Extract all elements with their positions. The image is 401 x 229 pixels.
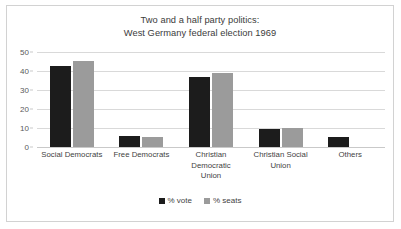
gridline-0 [37, 147, 385, 148]
y-axis-tick-mark [30, 109, 33, 110]
x-axis-label: Others [315, 150, 385, 161]
bar-group [176, 52, 246, 147]
y-axis-tick-mark [30, 71, 33, 72]
y-axis-tick-label: 30 [20, 86, 29, 95]
x-axis-label-line: Union [176, 171, 246, 182]
x-axis-label: Christian SocialUnion [246, 150, 316, 171]
chart-title-line-2: West Germany federal election 1969 [7, 27, 393, 40]
bar-vote [119, 136, 140, 147]
bar-vote [50, 66, 71, 147]
x-axis-label-line: Free Democrats [107, 150, 177, 161]
x-axis-label-line: Union [246, 161, 316, 172]
y-axis-tick-label: 0 [25, 143, 29, 152]
chart-legend: % vote % seats [7, 196, 393, 205]
x-axis-label: Social Democrats [37, 150, 107, 161]
bar-group [37, 52, 107, 147]
plot-area [37, 52, 385, 147]
y-axis-tick-mark [30, 52, 33, 53]
y-axis-tick-label: 40 [20, 67, 29, 76]
x-axis-label-line: Christian [176, 150, 246, 161]
legend-item-seats: % seats [204, 196, 241, 205]
bar-seats [142, 137, 163, 147]
bar-vote [328, 137, 349, 147]
y-axis-tick-mark [30, 90, 33, 91]
x-axis-label-line: Social Democrats [37, 150, 107, 161]
legend-swatch-seats-icon [204, 198, 210, 204]
y-axis-tick-label: 10 [20, 124, 29, 133]
x-axis-label-line: Others [315, 150, 385, 161]
bar-group [315, 52, 385, 147]
bar-seats [73, 61, 94, 147]
x-axis-category-labels: Social DemocratsFree DemocratsChristianD… [37, 150, 385, 192]
legend-label-vote: % vote [168, 196, 192, 205]
legend-label-seats: % seats [213, 196, 241, 205]
legend-swatch-vote-icon [159, 198, 165, 204]
x-axis-label-line: Democratic [176, 161, 246, 172]
y-axis-tick-label: 20 [20, 105, 29, 114]
chart-title: Two and a half party politics: West Germ… [7, 14, 393, 39]
bar-vote [259, 129, 280, 147]
y-axis-tick-mark [30, 128, 33, 129]
y-axis-tick-mark [30, 147, 33, 148]
x-axis-label: ChristianDemocraticUnion [176, 150, 246, 182]
bar-seats [212, 73, 233, 147]
bar-group [107, 52, 177, 147]
legend-item-vote: % vote [159, 196, 192, 205]
y-axis-tick-label: 50 [20, 48, 29, 57]
chart-title-line-1: Two and a half party politics: [7, 14, 393, 27]
x-axis-label-line: Christian Social [246, 150, 316, 161]
chart-card: Two and a half party politics: West Germ… [6, 5, 394, 222]
bar-seats [282, 128, 303, 147]
bar-vote [189, 77, 210, 147]
x-axis-label: Free Democrats [107, 150, 177, 161]
y-axis: 01020304050 [7, 52, 33, 147]
bar-group [246, 52, 316, 147]
